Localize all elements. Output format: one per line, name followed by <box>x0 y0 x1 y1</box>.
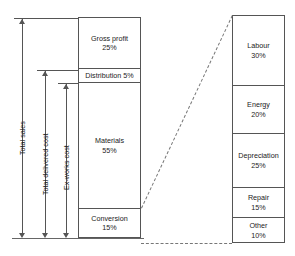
conversion-segment-repair-value: 15% <box>251 203 265 212</box>
measure-total-sales-arrowhead-top <box>19 19 25 24</box>
cost-segment-materials-value: 55% <box>102 146 116 155</box>
measure-total-delivered-cost-arrowhead-bottom <box>42 233 48 238</box>
measure-baseline <box>12 238 144 239</box>
measure-total-delivered-cost-arrowhead-top <box>42 71 48 76</box>
cost-segment-conversion-value: 15% <box>102 223 116 232</box>
callout-connector-top <box>141 15 233 208</box>
cost-segment-conversion-label: Conversion <box>91 214 127 223</box>
conversion-segment-energy: Energy 20% <box>233 85 284 133</box>
conversion-segment-energy-label: Energy <box>247 100 270 109</box>
measure-total-sales-arrowhead-bottom <box>19 233 25 238</box>
cost-breakdown-diagram: Gross profit 25% Distribution 5% Materia… <box>0 0 295 256</box>
conversion-segment-repair: Repair 15% <box>233 187 284 217</box>
conversion-segment-labour: Labour 30% <box>233 16 284 85</box>
cost-segment-conversion: Conversion 15% <box>79 208 140 237</box>
conversion-segment-depreciation-value: 25% <box>251 161 265 170</box>
cost-structure-bar: Gross profit 25% Distribution 5% Materia… <box>78 17 141 238</box>
cost-segment-distribution-label: Distribution <box>85 71 121 80</box>
cost-segment-distribution: Distribution 5% <box>79 68 140 82</box>
cost-segment-gross-profit: Gross profit 25% <box>79 18 140 68</box>
conversion-segment-depreciation: Depreciation 25% <box>233 133 284 187</box>
cost-segment-gross-profit-value: 25% <box>102 43 116 52</box>
conversion-segment-labour-value: 30% <box>251 51 265 60</box>
conversion-segment-labour-label: Labour <box>247 41 269 50</box>
measure-ex-works-cost-label: Ex-works cost <box>62 145 71 190</box>
cost-segment-materials: Materials 55% <box>79 82 140 208</box>
measure-ex-works-cost-arrowhead-bottom <box>63 233 69 238</box>
cost-segment-gross-profit-label: Gross profit <box>91 34 128 43</box>
conversion-segment-other-value: 10% <box>251 231 265 240</box>
conversion-segment-depreciation-label: Depreciation <box>238 151 278 160</box>
cost-segment-materials-label: Materials <box>95 136 124 145</box>
conversion-segment-other-label: Other <box>250 221 268 230</box>
conversion-segment-repair-label: Repair <box>248 193 269 202</box>
callout-connector-bottom <box>141 243 232 244</box>
conversion-breakdown-bar: Labour 30% Energy 20% Depreciation 25% R… <box>232 15 285 243</box>
measure-total-delivered-cost-label: Total delivered cost <box>41 133 50 195</box>
conversion-segment-other: Other 10% <box>233 217 284 243</box>
measure-ex-works-cost-arrowhead-top <box>63 84 69 89</box>
cost-segment-distribution-value: 5% <box>123 71 133 80</box>
conversion-segment-energy-value: 20% <box>251 110 265 119</box>
measure-total-sales-label: Total sales <box>18 121 27 155</box>
